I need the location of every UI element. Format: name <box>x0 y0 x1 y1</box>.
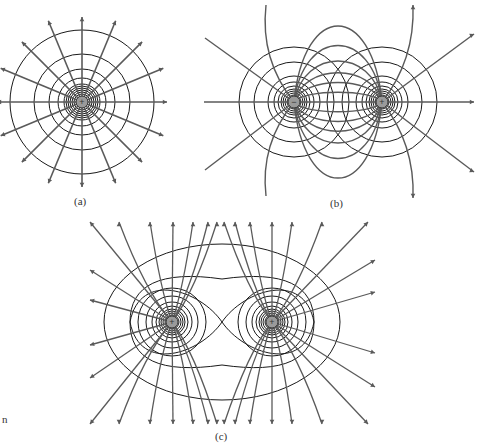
arrow-head-icon <box>163 100 167 105</box>
arrow-head-icon <box>411 194 416 198</box>
arrow-head-icon <box>248 420 253 424</box>
arrow-head-icon <box>117 222 122 226</box>
field-line <box>90 222 172 322</box>
arrow-head-icon <box>233 222 238 226</box>
arrow-head-icon <box>148 420 153 424</box>
arrow-head-icon <box>215 420 220 424</box>
field-line <box>172 222 173 322</box>
panel-b-label: (b) <box>330 197 343 209</box>
plus-sign-icon: + <box>79 97 84 107</box>
panel-c-label: (c) <box>215 430 227 442</box>
plus-sign-icon: + <box>269 317 274 327</box>
equipotential <box>130 290 314 354</box>
field-line-figure: +−+++ (a) (b) (c) n <box>0 0 478 447</box>
field-line <box>272 222 368 322</box>
field-line <box>82 102 142 162</box>
minus-sign-icon: − <box>291 97 296 107</box>
arrow-head-icon <box>233 420 238 424</box>
arrow-head-icon <box>191 222 196 226</box>
arrow-head-icon <box>290 222 295 226</box>
arrow-head-icon <box>270 420 275 424</box>
arrow-head-icon <box>320 420 325 424</box>
field-line <box>90 322 172 424</box>
field-line <box>172 322 173 424</box>
arrow-head-icon <box>206 420 211 424</box>
arrow-head-icon <box>171 222 176 226</box>
arrow-head-icon <box>222 420 227 424</box>
field-line <box>205 38 294 102</box>
field-line <box>22 42 82 102</box>
arrow-head-icon <box>117 420 122 424</box>
panel-a-label: (a) <box>74 195 86 207</box>
arrow-head-icon <box>206 222 211 226</box>
arrow-head-icon <box>171 420 176 424</box>
arrow-head-icon <box>411 5 416 9</box>
plus-sign-icon: + <box>379 97 384 107</box>
field-diagrams: +−+++ <box>0 0 478 447</box>
field-line <box>382 102 474 172</box>
arrow-head-icon <box>320 222 325 226</box>
arrow-head-icon <box>248 222 253 226</box>
field-line <box>205 102 294 170</box>
arrow-head-icon <box>215 222 220 226</box>
arrow-head-icon <box>80 183 85 187</box>
plus-sign-icon: + <box>169 317 174 327</box>
margin-text: n <box>2 413 8 425</box>
field-line <box>224 222 272 322</box>
field-line <box>265 5 294 102</box>
field-line <box>82 42 142 102</box>
field-line <box>172 322 217 424</box>
arrow-head-icon <box>148 222 153 226</box>
arrow-head-icon <box>470 100 474 105</box>
arrow-head-icon <box>290 420 295 424</box>
arrow-head-icon <box>0 100 1 105</box>
field-line <box>22 102 82 162</box>
field-line <box>119 222 172 322</box>
arrow-head-icon <box>270 222 275 226</box>
arrow-head-icon <box>80 17 85 21</box>
arrow-head-icon <box>191 420 196 424</box>
field-line <box>224 322 272 424</box>
arrow-head-icon <box>222 222 227 226</box>
field-line <box>272 222 292 322</box>
field-line <box>272 292 375 322</box>
field-line <box>119 322 172 424</box>
field-line <box>382 34 474 102</box>
